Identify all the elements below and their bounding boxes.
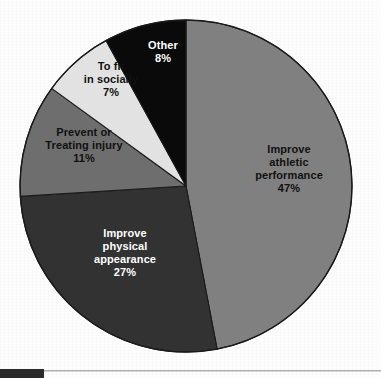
pie-label-line: 27% bbox=[114, 266, 136, 278]
chart-plot-area: Improveathleticperformance47%Improvephys… bbox=[0, 0, 381, 360]
pie-label-line: To fit bbox=[98, 60, 125, 72]
pie-label-line: 11% bbox=[73, 152, 95, 164]
pie-label-line: in socially bbox=[84, 73, 139, 85]
pie-label-line: Improve bbox=[267, 143, 311, 155]
pie-label-line: 8% bbox=[155, 52, 171, 64]
pie-slice-improve-athletic-performance bbox=[186, 20, 352, 349]
pie-label-line: physical bbox=[103, 240, 148, 252]
pie-label-line: performance bbox=[255, 169, 323, 181]
pie-chart-figure: Improveathleticperformance47%Improvephys… bbox=[0, 0, 381, 378]
pie-label-line: Improve bbox=[103, 227, 147, 239]
pie-label-line: 47% bbox=[278, 182, 300, 194]
pie-label-line: appearance bbox=[94, 253, 156, 265]
pie-label-line: Prevent or bbox=[56, 126, 112, 138]
pie-label-line: athletic bbox=[269, 156, 308, 168]
pie-label-line: 7% bbox=[103, 86, 119, 98]
footer-divider-rule bbox=[44, 370, 381, 372]
pie-chart-svg: Improveathleticperformance47%Improvephys… bbox=[0, 0, 381, 360]
pie-label-line: Treating injury bbox=[45, 139, 123, 151]
footer-left-block bbox=[0, 369, 44, 378]
pie-label-line: Other bbox=[148, 39, 178, 51]
pie-slices-group bbox=[20, 20, 352, 352]
